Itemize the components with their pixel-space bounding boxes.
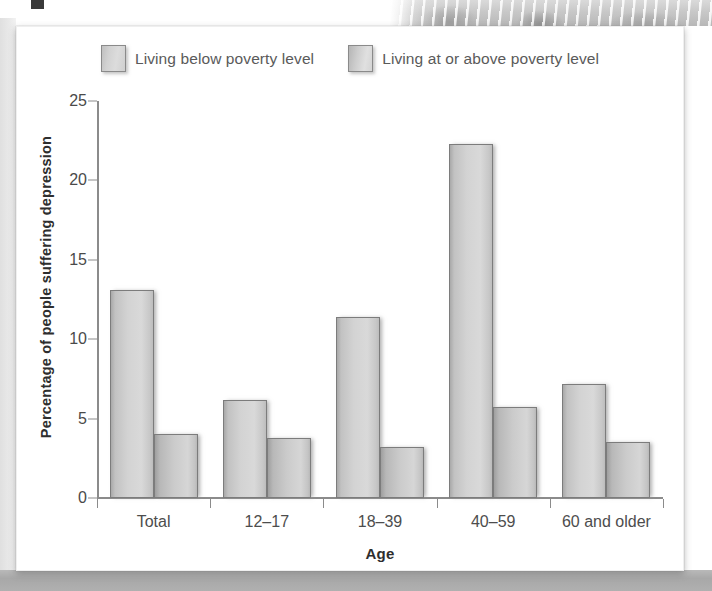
x-axis-title: Age <box>97 545 663 562</box>
y-tick-mark <box>88 498 97 499</box>
y-tick-mark <box>88 101 97 102</box>
y-tick-label-group: 0510152025 <box>43 27 87 572</box>
y-tick-label: 10 <box>47 330 87 348</box>
bar-group <box>550 101 663 498</box>
bar-group <box>323 101 436 498</box>
bar-group <box>437 101 550 498</box>
bar-at-or-above-poverty[interactable] <box>154 434 198 498</box>
x-tick-label: 12–17 <box>210 513 323 531</box>
y-tick-mark <box>88 180 97 181</box>
y-tick-label: 20 <box>47 171 87 189</box>
x-tick-label: 60 and older <box>550 513 663 531</box>
bar-at-or-above-poverty[interactable] <box>380 447 424 498</box>
decorative-photo-strip <box>390 0 712 26</box>
page-corner-glyph <box>31 0 44 9</box>
bar-group <box>210 101 323 498</box>
bar-at-or-above-poverty[interactable] <box>606 442 650 498</box>
photo-strip-fade <box>360 0 420 26</box>
x-tick-mark <box>550 499 551 508</box>
x-tick-label-group: Total12–1718–3940–5960 and older <box>97 513 663 531</box>
x-tick-mark <box>323 499 324 508</box>
y-tick-label: 0 <box>47 489 87 507</box>
y-tick-label: 15 <box>47 251 87 269</box>
bar-groups <box>97 101 663 498</box>
bar-at-or-above-poverty[interactable] <box>267 438 311 498</box>
y-tick-label: 25 <box>47 92 87 110</box>
x-tick-label: 18–39 <box>323 513 436 531</box>
y-tick-mark <box>88 339 97 340</box>
x-tick-mark <box>663 499 664 508</box>
y-tick-label: 5 <box>47 410 87 428</box>
bar-below-poverty[interactable] <box>449 144 493 498</box>
plot-area: Percentage of people suffering depressio… <box>17 27 685 572</box>
bar-below-poverty[interactable] <box>336 317 380 498</box>
bar-below-poverty[interactable] <box>223 400 267 498</box>
x-tick-mark <box>210 499 211 508</box>
y-tick-mark <box>88 259 97 260</box>
bar-at-or-above-poverty[interactable] <box>493 407 537 498</box>
x-tick-label: Total <box>97 513 210 531</box>
bottom-gray-band <box>0 570 712 591</box>
chart-card: Living below poverty level Living at or … <box>16 26 684 571</box>
left-margin-band <box>0 18 16 578</box>
bar-below-poverty[interactable] <box>110 290 154 498</box>
x-tick-label: 40–59 <box>437 513 550 531</box>
y-tick-mark <box>88 418 97 419</box>
x-tick-mark <box>97 499 98 508</box>
page-root: Living below poverty level Living at or … <box>0 0 712 591</box>
bar-group <box>97 101 210 498</box>
x-tick-mark <box>437 499 438 508</box>
bar-below-poverty[interactable] <box>562 384 606 498</box>
